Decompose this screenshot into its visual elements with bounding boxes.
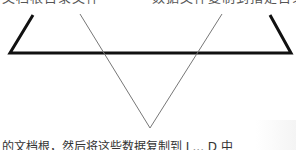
thick-bracket <box>10 15 291 53</box>
bottom-caption: 的文档根，然后将这些数据复制到 L... D 中 <box>2 140 296 150</box>
bracket-shape <box>10 15 291 53</box>
v-left-line <box>80 14 150 128</box>
bracket-v-diagram <box>0 0 296 150</box>
thin-v-lines <box>80 14 222 128</box>
v-right-line <box>150 14 222 128</box>
